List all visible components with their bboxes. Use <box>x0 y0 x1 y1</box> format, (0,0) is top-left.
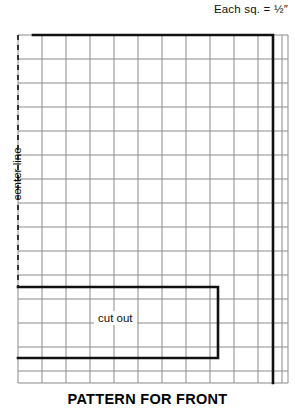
pattern-diagram-page: Each sq. = ½″ <box>0 0 295 412</box>
pattern-caption: PATTERN FOR FRONT <box>0 391 295 407</box>
pattern-drawing <box>0 0 295 412</box>
graph-paper-grid <box>18 35 288 383</box>
center-line-label: center line <box>11 129 23 219</box>
cut-out-label: cut out <box>94 311 137 325</box>
pattern-outline <box>33 35 273 383</box>
